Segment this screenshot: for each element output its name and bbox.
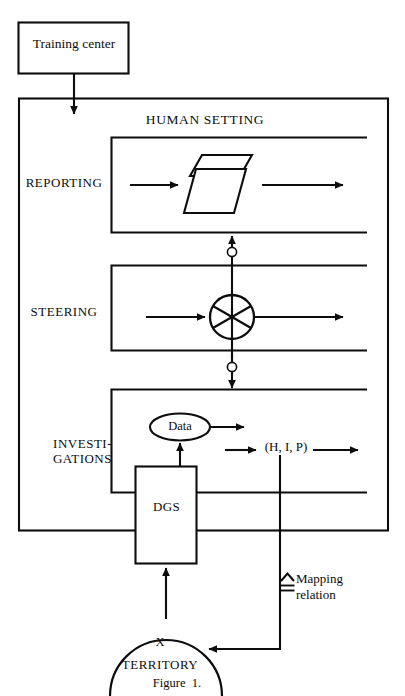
dgs-node-label: DGS xyxy=(136,500,197,515)
territory-label: TERRITORY xyxy=(108,658,212,673)
training-center-label: Training center xyxy=(26,36,122,51)
figure-canvas: Training center HUMAN SETTING REPORTING … xyxy=(0,0,405,696)
band-label-investigations: INVESTI- GATIONS xyxy=(12,437,112,466)
report-sheet-front-icon xyxy=(184,169,246,213)
data-node-label: Data xyxy=(152,419,208,433)
mapping-relation-symbol-icon xyxy=(281,574,295,591)
mapping-relation-line1: Mapping xyxy=(296,571,343,586)
link-node-upper-circle xyxy=(227,247,236,256)
figure-caption: Figure 1. xyxy=(122,676,232,690)
dgs-box xyxy=(136,467,197,564)
band-label-reporting: REPORTING xyxy=(18,176,110,191)
hip-node-label: (H, I, P) xyxy=(258,440,314,455)
human-setting-title: HUMAN SETTING xyxy=(130,112,280,127)
band-label-steering: STEERING xyxy=(18,305,110,320)
territory-marker-label: X xyxy=(132,635,188,649)
mapping-feedback-path xyxy=(209,455,280,649)
link-node-lower-circle xyxy=(227,362,236,371)
mapping-relation-label: Mappingrelation xyxy=(296,571,392,603)
mapping-relation-line2: relation xyxy=(296,587,336,602)
